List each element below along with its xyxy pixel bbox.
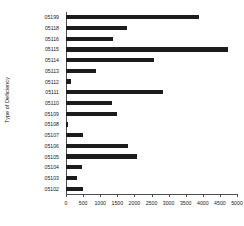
- x-axis-tick-label: 5000: [231, 200, 243, 206]
- bar-row: [66, 152, 237, 162]
- bar-row: [66, 23, 237, 33]
- x-axis-tick-label: 2000: [129, 200, 141, 206]
- bar: [66, 79, 71, 83]
- bar-row: [66, 119, 237, 129]
- y-axis-tick-label: 05102: [45, 184, 59, 194]
- bar: [66, 122, 68, 126]
- bar: [66, 58, 154, 62]
- bar-row: [66, 55, 237, 65]
- bar-row: [66, 77, 237, 87]
- bar-row: [66, 130, 237, 140]
- bar-row: [66, 34, 237, 44]
- bar-row: [66, 66, 237, 76]
- x-axis-tick-mark: [169, 194, 170, 197]
- x-axis-tick-mark: [152, 194, 153, 197]
- bar: [66, 69, 96, 73]
- x-axis-tick-mark: [186, 194, 187, 197]
- y-axis-tick-label: 05110: [45, 98, 59, 108]
- bar-row: [66, 141, 237, 151]
- x-axis-tick-mark: [203, 194, 204, 197]
- bar: [66, 15, 199, 19]
- bar-row: [66, 87, 237, 97]
- y-axis-tick-label: 05118: [45, 23, 59, 33]
- x-axis-tick-mark: [100, 194, 101, 197]
- x-axis-tick-label: 1500: [112, 200, 124, 206]
- x-axis-tick-mark: [220, 194, 221, 197]
- bar: [66, 176, 77, 180]
- bar-row: [66, 44, 237, 54]
- y-axis-tick-label: 05116: [45, 34, 59, 44]
- plot-area: [66, 12, 237, 194]
- bar-row: [66, 12, 237, 22]
- bar: [66, 187, 83, 191]
- bar-row: [66, 184, 237, 194]
- y-axis-tick-label: 05109: [45, 109, 59, 119]
- x-axis-tick-label: 2500: [146, 200, 158, 206]
- x-axis-tick-label: 1000: [94, 200, 106, 206]
- y-axis-tick-label: 05112: [45, 77, 59, 87]
- y-axis-tick-label: 05106: [45, 141, 59, 151]
- y-axis-tick-label: 05105: [45, 152, 59, 162]
- bar: [66, 101, 112, 105]
- y-axis-tick-label: 05113: [45, 66, 59, 76]
- x-axis-tick-mark: [66, 194, 67, 197]
- y-axis-title-label: Type of Deficiency: [4, 77, 10, 123]
- y-axis-tick-label: 05114: [45, 55, 59, 65]
- bar-row: [66, 162, 237, 172]
- x-axis-tick-mark: [83, 194, 84, 197]
- bar: [66, 47, 228, 51]
- x-axis-tick-mark: [134, 194, 135, 197]
- x-axis-tick-mark: [117, 194, 118, 197]
- x-axis-tick-label: 0: [65, 200, 68, 206]
- y-axis-tick-label: 05104: [45, 162, 59, 172]
- y-axis-tick-label: 05103: [45, 173, 59, 183]
- bar: [66, 133, 83, 137]
- y-axis-tick-labels: 0519905118051160511505114051130511205111…: [14, 12, 62, 194]
- y-axis-title: Type of Deficiency: [0, 0, 14, 200]
- x-axis-tick-label: 500: [79, 200, 88, 206]
- bar-row: [66, 173, 237, 183]
- y-axis-tick-label: 05199: [45, 12, 59, 22]
- x-axis-tick-label: 4500: [214, 200, 226, 206]
- y-axis-tick-label: 05108: [45, 119, 59, 129]
- bar-chart: Type of Deficiency 051990511805116051150…: [0, 0, 244, 226]
- y-axis-tick-label: 05111: [45, 87, 59, 97]
- bar: [66, 26, 127, 30]
- bar: [66, 37, 113, 41]
- y-axis-tick-label: 05115: [45, 44, 59, 54]
- y-axis-tick-label: 05107: [45, 130, 59, 140]
- x-axis-tick-label: 4000: [197, 200, 209, 206]
- bar: [66, 144, 128, 148]
- bar-row: [66, 98, 237, 108]
- bar: [66, 165, 82, 169]
- bar-row: [66, 109, 237, 119]
- x-axis-tick-label: 3500: [180, 200, 192, 206]
- bar: [66, 90, 163, 94]
- x-axis-tick-mark: [237, 194, 238, 197]
- bar: [66, 154, 137, 158]
- x-axis-tick-label: 3000: [163, 200, 175, 206]
- bar: [66, 112, 117, 116]
